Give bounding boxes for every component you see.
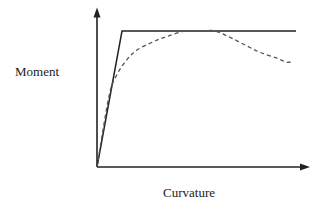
x-axis-arrow-icon <box>300 164 310 171</box>
moment-curvature-diagram: Moment Curvature <box>0 0 320 210</box>
idealized-bilinear-curve <box>97 31 296 167</box>
series-group <box>97 30 296 167</box>
plot-area <box>0 0 320 210</box>
x-axis-label: Curvature <box>163 185 215 201</box>
y-axis-arrow-icon <box>94 8 101 18</box>
axes <box>94 8 311 171</box>
actual-response-curve <box>97 30 293 167</box>
y-axis-label: Moment <box>15 64 59 80</box>
